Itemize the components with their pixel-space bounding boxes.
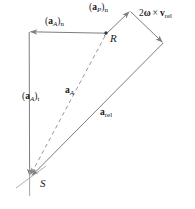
label-coriolis-acceleration: 2ω × vrel — [139, 9, 172, 20]
label-a-rel: arel — [100, 108, 112, 119]
point-label-R: R — [110, 33, 117, 44]
vector-arel-line — [32, 43, 163, 176]
label-a-A-normal: (aA)n — [45, 17, 64, 28]
point-label-S: S — [40, 178, 46, 189]
label-a-A: aA — [65, 86, 74, 97]
label-a-A-tangential: (aA)t — [22, 92, 39, 103]
label-a-P-normal: (aP)n — [89, 3, 108, 14]
vector-diagram-canvas — [0, 0, 195, 209]
vector-aA-line — [31, 36, 105, 175]
vector-aAn-line — [31, 32, 107, 33]
acceleration-vector-diagram: (aA)n (aP)n 2ω × vrel (aA)t aA arel R S — [0, 0, 195, 209]
node-dot-R — [104, 31, 107, 34]
